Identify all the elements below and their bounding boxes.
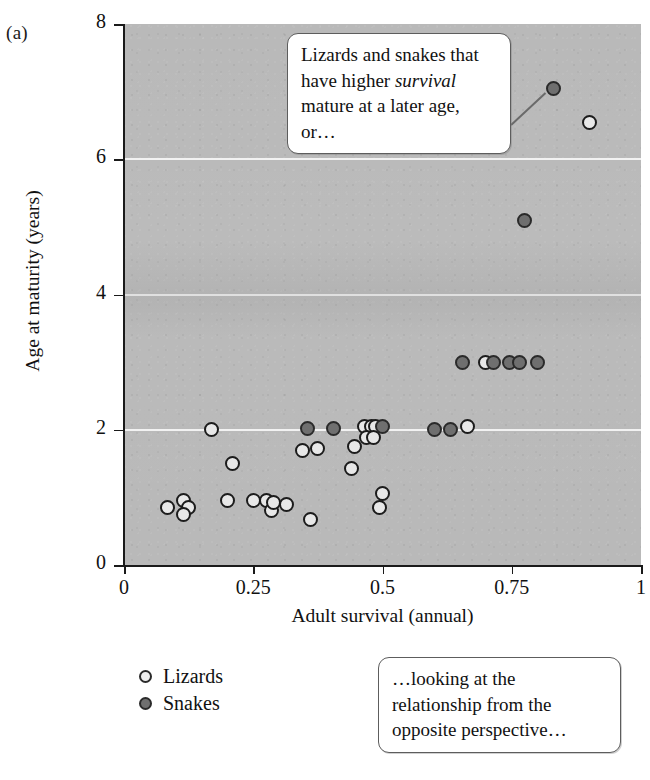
callout-upper: Lizards and snakes that have higher surv… — [287, 33, 511, 154]
x-tick — [253, 565, 255, 574]
gridline-y — [124, 158, 641, 160]
data-point-snake — [427, 422, 442, 437]
y-tick-label: 8 — [6, 10, 106, 33]
x-tick — [641, 565, 643, 574]
y-tick — [114, 430, 123, 432]
data-point-snake — [300, 421, 315, 436]
callout-lower-line1: …looking at the — [392, 666, 607, 692]
x-axis-title: Adult survival (annual) — [124, 605, 641, 627]
legend-label-snakes: Snakes — [163, 692, 220, 715]
y-tick-label: 0 — [6, 551, 106, 574]
data-point-snake — [455, 355, 470, 370]
filled-circle-icon — [139, 697, 152, 710]
y-axis-title: Age at maturity (years) — [22, 116, 44, 446]
y-tick — [114, 295, 123, 297]
data-point-snake — [326, 421, 341, 436]
callout-lower-line3: opposite perspective… — [392, 717, 607, 743]
y-tick — [114, 565, 123, 567]
callout-upper-line2: have higher survival — [301, 68, 497, 94]
callout-lower: …looking at the relationship from the op… — [378, 657, 621, 753]
data-point-snake — [530, 355, 545, 370]
data-point-snake — [486, 355, 501, 370]
callout-lower-line2: relationship from the — [392, 692, 607, 718]
x-tick — [124, 565, 126, 574]
y-tick-label: 6 — [6, 145, 106, 168]
legend-label-lizards: Lizards — [163, 665, 223, 688]
data-point-snake — [512, 355, 527, 370]
callout-upper-line4: or… — [301, 119, 497, 145]
callout-upper-line2-text: have higher — [301, 70, 395, 91]
open-circle-icon — [139, 670, 152, 683]
data-point-lizard — [582, 115, 597, 130]
x-tick-label: 0.5 — [343, 576, 423, 599]
data-point-snake — [517, 213, 532, 228]
x-tick — [512, 565, 514, 574]
scatter-plot: 02468 00.250.50.751 Adult survival (annu… — [0, 0, 641, 600]
x-tick-label: 0.25 — [213, 576, 293, 599]
data-point-lizard — [303, 512, 318, 527]
callout-upper-line1: Lizards and snakes that — [301, 42, 497, 68]
y-tick-label: 4 — [6, 281, 106, 304]
y-axis-line — [123, 24, 125, 566]
y-tick-label: 2 — [6, 416, 106, 439]
callout-upper-line3: mature at a later age, — [301, 93, 497, 119]
data-point-lizard — [295, 443, 310, 458]
data-point-lizard — [279, 497, 294, 512]
legend-item-snakes: Snakes — [139, 690, 223, 717]
gridline-y — [124, 294, 641, 296]
y-tick — [114, 24, 123, 26]
legend-item-lizards: Lizards — [139, 663, 223, 690]
x-tick-label: 1 — [601, 576, 650, 599]
data-point-snake — [546, 81, 561, 96]
y-tick — [114, 159, 123, 161]
x-tick — [383, 565, 385, 574]
x-tick-label: 0 — [84, 576, 164, 599]
callout-upper-line2-emphasis: survival — [395, 70, 456, 91]
x-tick-label: 0.75 — [472, 576, 552, 599]
legend: Lizards Snakes — [139, 663, 223, 717]
data-point-snake — [375, 419, 390, 434]
